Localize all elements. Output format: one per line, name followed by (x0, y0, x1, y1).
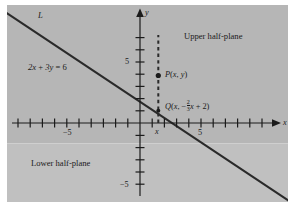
point-P-label: P(x, y) (165, 71, 187, 79)
point-Q-label: Q(x, −23x + 2) (165, 99, 209, 112)
y-axis-arrowhead (136, 9, 144, 18)
figure-container: L 2x + 3y = 6 Upper half-plane Lower hal… (0, 0, 295, 207)
x-foot-label: x (155, 128, 159, 136)
point-Q-marker (156, 109, 160, 113)
line-L (2, 10, 292, 203)
equation-label: 2x + 3y = 6 (28, 63, 67, 72)
upper-half-plane-label: Upper half-plane (184, 32, 242, 41)
x-tick-label-minus5: −5 (63, 129, 72, 137)
y-tick-label-minus5: −5 (120, 181, 129, 189)
x-axis-arrowhead (272, 119, 281, 127)
plot-svg (0, 0, 295, 207)
point-P-marker (156, 73, 161, 78)
line-label-L: L (38, 11, 43, 20)
x-tick-label-5: 5 (198, 129, 202, 137)
y-axis-label: y (145, 9, 149, 17)
lower-half-plane-label: Lower half-plane (31, 159, 90, 168)
x-axis-label: x (283, 119, 287, 127)
y-tick-label-5: 5 (125, 58, 129, 66)
